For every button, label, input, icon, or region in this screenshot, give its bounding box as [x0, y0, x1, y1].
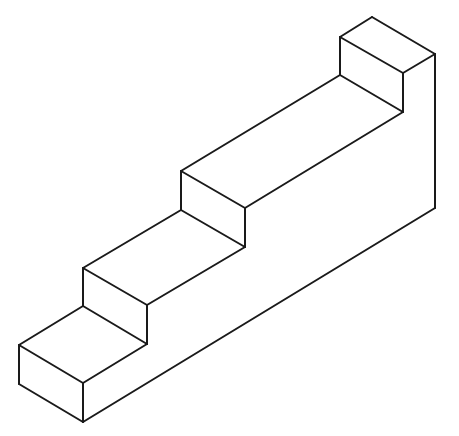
step1-tread-back-edge — [19, 306, 83, 345]
upper-tread-front-edge — [245, 112, 403, 208]
top-block-top-back-left-edge — [340, 17, 372, 37]
step2-tread-front-edge — [147, 247, 245, 305]
step1-riser-base-edge — [83, 306, 147, 344]
step2-riser-base-edge — [181, 210, 245, 247]
step1-top-front-edge — [19, 345, 83, 383]
top-block-top-front-left-edge — [340, 37, 403, 73]
isometric-staircase-drawing — [0, 0, 459, 436]
staircase-diagram — [0, 0, 459, 436]
base-right-bottom-edge — [83, 208, 435, 422]
step2-top-front-edge — [83, 268, 147, 305]
step2-tread-back-edge — [83, 210, 181, 268]
base-left-bottom-edge — [19, 384, 83, 422]
step3-top-front-edge — [181, 171, 245, 208]
top-block-top-back-right-edge — [372, 17, 435, 54]
upper-tread-back-edge — [181, 75, 340, 171]
upper-tread-riser-top-edge — [340, 75, 403, 112]
step1-tread-front-edge — [83, 344, 147, 383]
top-block-top-front-right-edge — [403, 54, 435, 73]
